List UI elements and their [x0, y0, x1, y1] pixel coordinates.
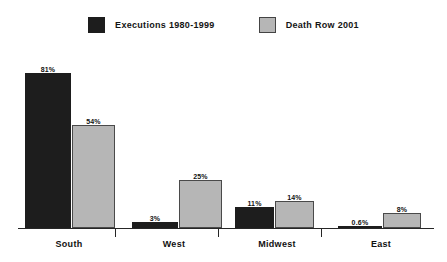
bar-label-midwest-death-row: 14%: [287, 194, 302, 201]
bar-east-death-row: 8%: [383, 213, 421, 228]
legend-swatch-light-icon: [259, 17, 276, 33]
bar-label-south-death-row: 54%: [86, 118, 101, 125]
legend-item-death-row: Death Row 2001: [259, 17, 359, 33]
bar-midwest-death-row: 14%: [275, 201, 314, 228]
category-label-east: East: [371, 240, 391, 249]
bar-label-west-death-row: 25%: [193, 173, 208, 180]
bar-label-east-executions: 0.6%: [352, 219, 369, 226]
category-axis-line: [18, 228, 434, 229]
axis-tick-3: [321, 228, 322, 237]
bar-label-west-executions: 3%: [150, 215, 161, 222]
bar-label-south-executions: 81%: [41, 66, 56, 73]
legend-swatch-dark-icon: [88, 17, 105, 33]
bar-west-death-row: 25%: [179, 180, 222, 228]
category-label-midwest: Midwest: [258, 240, 296, 249]
category-label-row: South West Midwest East: [18, 240, 434, 256]
axis-tick-1: [115, 228, 116, 237]
legend-item-executions: Executions 1980-1999: [88, 17, 215, 33]
bar-chart: Executions 1980-1999 Death Row 2001 81% …: [0, 0, 447, 262]
chart-legend: Executions 1980-1999 Death Row 2001: [0, 14, 447, 36]
bar-label-east-death-row: 8%: [397, 206, 408, 213]
bar-midwest-executions: 11%: [235, 207, 274, 228]
bar-south-death-row: 54%: [72, 125, 115, 228]
plot-area: 81% 54% 3% 25% 11% 14% 0.6% 8%: [18, 56, 434, 228]
bar-label-midwest-executions: 11%: [247, 200, 261, 207]
category-label-west: West: [163, 240, 186, 249]
axis-tick-2: [218, 228, 219, 237]
legend-label-death-row: Death Row 2001: [286, 21, 359, 30]
bar-south-executions: 81%: [25, 73, 71, 228]
legend-label-executions: Executions 1980-1999: [115, 21, 215, 30]
category-label-south: South: [56, 240, 83, 249]
